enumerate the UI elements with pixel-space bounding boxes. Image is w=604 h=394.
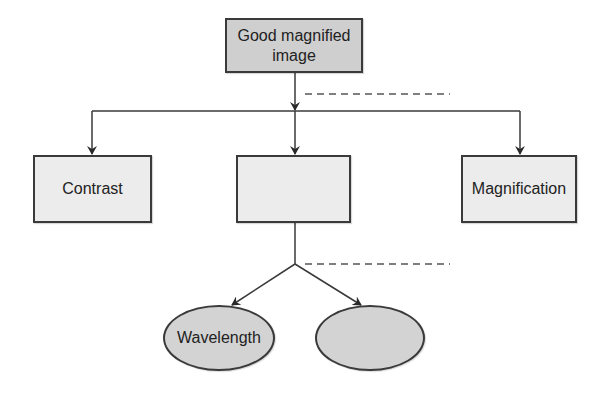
node-contrast-label: Contrast	[62, 179, 122, 199]
node-blank-middle	[236, 155, 351, 223]
node-wavelength: Wavelength	[163, 305, 275, 371]
root-node-line1: Good magnified	[238, 26, 351, 46]
node-blank-ellipse	[315, 305, 425, 371]
node-wavelength-label: Wavelength	[177, 328, 261, 348]
root-node-good-magnified-image: Good magnified image	[225, 18, 363, 73]
arrow-to-blank-ellipse	[295, 264, 361, 305]
node-contrast: Contrast	[33, 155, 152, 223]
node-magnification-label: Magnification	[472, 179, 566, 199]
node-magnification: Magnification	[461, 155, 577, 223]
root-node-line2: image	[272, 46, 316, 66]
arrow-to-wavelength	[232, 264, 295, 305]
